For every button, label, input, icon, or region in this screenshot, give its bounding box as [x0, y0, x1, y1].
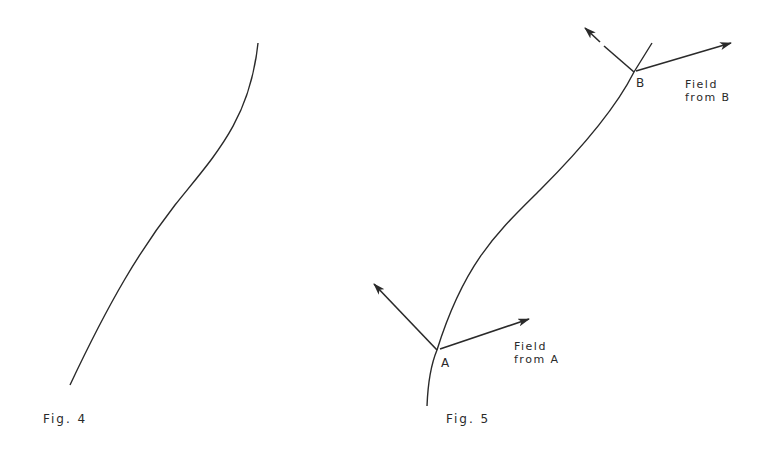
- fig4-curve: [70, 43, 258, 385]
- field-from-b-line2: from B: [685, 91, 731, 104]
- point-b-field-arrow: [636, 43, 731, 71]
- point-b-normal-arrow-lower: [604, 46, 634, 72]
- field-from-b-label: Field from B: [685, 78, 731, 104]
- point-a-normal-arrow: [374, 284, 437, 350]
- field-from-a-label: Field from A: [514, 340, 560, 366]
- point-b-normal-arrow-upper: [585, 28, 600, 42]
- point-a-label: A: [441, 357, 449, 369]
- point-b-label: B: [636, 77, 644, 89]
- field-from-a-line1: Field: [514, 340, 560, 353]
- fig5-caption: Fig. 5: [446, 413, 490, 425]
- fig4-caption: Fig. 4: [43, 413, 87, 425]
- diagram-canvas: [0, 0, 776, 462]
- field-from-b-line1: Field: [685, 78, 731, 91]
- field-from-a-line2: from A: [514, 353, 560, 366]
